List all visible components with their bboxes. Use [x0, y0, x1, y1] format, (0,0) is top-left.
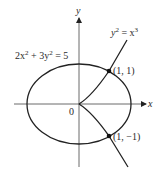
- ellipse-equation-label: 2x2 + 3y2 = 5: [15, 49, 68, 61]
- cubic-equation-label: y2 = x3: [110, 26, 139, 38]
- x-axis-label: x: [147, 98, 153, 109]
- point-1-1: [107, 69, 112, 74]
- origin-label: 0: [69, 106, 74, 117]
- eq-x-exp: 3: [135, 26, 139, 34]
- eq-2x: 2x: [15, 50, 25, 61]
- point-label-1-neg1: (1, −1): [113, 131, 140, 143]
- eq-x: = x: [119, 27, 135, 38]
- eq-3y: + 3y: [29, 50, 50, 61]
- y-axis-label: y: [75, 5, 81, 16]
- point-label-1-1: (1, 1): [113, 65, 135, 77]
- eq-rhs: = 5: [53, 50, 69, 61]
- figure: x y 0 (1, 1) (1, −1) 2x2 + 3y2 = 5 y2 = …: [0, 0, 156, 177]
- point-1-neg1: [107, 134, 112, 139]
